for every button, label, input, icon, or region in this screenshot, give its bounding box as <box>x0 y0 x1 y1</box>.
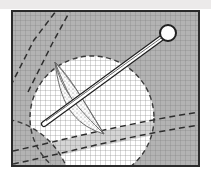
needle-knob <box>160 25 176 41</box>
cross-section-illustration <box>0 0 211 178</box>
tissue-body <box>0 11 199 178</box>
figure-root <box>0 0 211 178</box>
